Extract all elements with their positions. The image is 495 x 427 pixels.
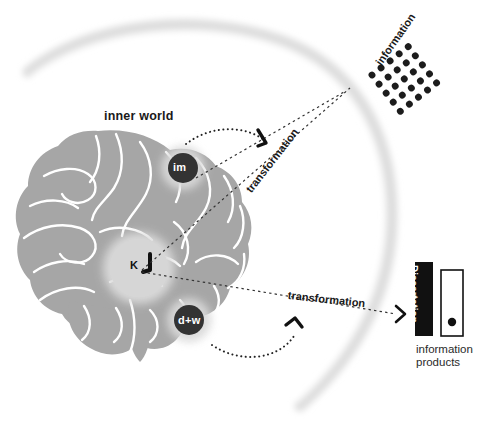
grid-dot xyxy=(403,42,413,52)
grid-dot xyxy=(367,70,377,80)
inner-world-label: inner world xyxy=(104,109,174,123)
arrowhead-upper-curve xyxy=(258,130,266,146)
information-products-line-2: products xyxy=(416,356,473,369)
grid-dot xyxy=(401,58,411,68)
grid-dot xyxy=(409,67,419,77)
node-k-label: K xyxy=(130,259,138,271)
dissertation-spine-label: Dissertation xyxy=(408,265,419,325)
grid-dot xyxy=(374,79,384,89)
diagram-canvas: inner world information transformation t… xyxy=(0,0,495,427)
grid-dot xyxy=(390,81,400,91)
node-dw-label: d+w xyxy=(178,314,201,326)
grid-dot xyxy=(398,90,408,100)
grid-dot xyxy=(383,72,393,82)
curved-arrow-upper xyxy=(186,129,266,146)
information-products-label: information products xyxy=(416,343,473,369)
curved-arrow-lower xyxy=(212,318,302,357)
grid-dot xyxy=(407,83,417,93)
information-products-line-1: information xyxy=(416,343,473,356)
grid-dot xyxy=(425,69,435,79)
grid-dot xyxy=(411,51,421,61)
arrowhead-to-products xyxy=(396,306,405,322)
product-dot xyxy=(448,318,456,326)
grid-dot xyxy=(432,78,442,88)
grid-dot xyxy=(381,88,391,98)
grid-dot xyxy=(394,49,404,59)
grid-dot xyxy=(414,92,424,102)
grid-dot xyxy=(388,97,398,107)
grid-dot xyxy=(416,76,426,86)
grid-dot xyxy=(400,74,410,84)
arrowhead-lower-curve xyxy=(286,318,302,327)
node-k[interactable] xyxy=(110,239,168,297)
grid-dot xyxy=(392,65,402,75)
grid-dot xyxy=(423,85,433,95)
grid-dot xyxy=(405,99,415,109)
grid-dot xyxy=(396,106,406,116)
product-blank[interactable] xyxy=(441,270,463,336)
node-im-label: im xyxy=(173,161,186,173)
grid-dot xyxy=(418,60,428,70)
